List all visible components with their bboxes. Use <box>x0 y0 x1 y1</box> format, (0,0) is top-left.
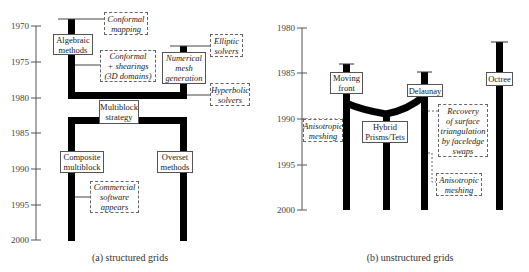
annotation-conformal-shearings: Conformal + shearings (3D domains) <box>100 50 156 82</box>
label-line: front <box>338 83 355 93</box>
method-composite-multiblock: Composite multiblock <box>60 151 104 173</box>
label-line: methods <box>59 45 88 55</box>
label-line: Hyperbolic <box>211 85 249 95</box>
label-line: software <box>100 192 129 202</box>
label-line: methods <box>161 162 190 172</box>
label-line: Hybrid <box>373 122 397 132</box>
method-algebraic-methods: Algebraic methods <box>53 34 93 55</box>
label-line: Delaunay <box>409 86 442 96</box>
method-numerical-mesh-generation: Numerical mesh generation <box>162 52 206 84</box>
label-line: meshing <box>309 131 337 141</box>
label-line: Composite <box>64 152 101 162</box>
svg-text:1980: 1980 <box>11 93 30 103</box>
label-line: Moving <box>333 73 360 83</box>
label-line: by faceledge <box>442 136 485 146</box>
label-line: solvers <box>214 46 238 56</box>
annotation-anisotropic-meshing-right: Anisotropic meshing <box>436 173 482 196</box>
label-line: triangulation <box>441 126 486 136</box>
label-line: + shearings <box>108 61 149 71</box>
label-line: Prisms/Tets <box>365 132 405 142</box>
label-line: multiblock <box>64 162 101 172</box>
label-line: mesh <box>175 63 192 73</box>
method-hybrid-prisms-tets: Hybrid Prisms/Tets <box>362 121 408 143</box>
annotation-conformal-mapping: Conformal mapping <box>104 12 148 35</box>
label-line: Conformal <box>110 51 147 61</box>
svg-text:1995: 1995 <box>277 160 296 170</box>
label-line: mapping <box>111 24 141 34</box>
label-line: Anisotropic <box>303 121 342 131</box>
annotation-anisotropic-meshing-left: Anisotropic meshing <box>303 119 343 142</box>
unstructured-caps <box>339 42 508 72</box>
svg-text:1995: 1995 <box>11 200 30 210</box>
annotation-hyperbolic-solvers: Hyperbolic solvers <box>210 83 250 106</box>
method-overset-methods: Overset methods <box>157 151 193 173</box>
svg-text:2000: 2000 <box>11 235 30 245</box>
method-multiblock-strategy: Multiblock strategy <box>99 100 139 124</box>
axis-structured-labels: 1970 1975 1980 1985 1990 1995 2000 <box>11 21 30 245</box>
label-line: Overset <box>162 152 188 162</box>
label-line: solvers <box>218 95 242 105</box>
method-octree: Octree <box>486 72 513 86</box>
svg-text:1980: 1980 <box>277 23 296 33</box>
label-line: of surface <box>446 116 480 126</box>
svg-text:1990: 1990 <box>11 164 30 174</box>
svg-text:1970: 1970 <box>11 21 30 31</box>
label-line: swaps <box>453 146 474 156</box>
label-line: meshing <box>445 185 473 195</box>
annotation-elliptic-solvers: Elliptic solvers <box>210 34 243 57</box>
label-line: Octree <box>488 74 511 84</box>
method-delaunay: Delaunay <box>407 84 443 97</box>
label-line: Numerical <box>166 53 202 63</box>
axis-unstructured-labels: 1980 1985 1990 1995 2000 <box>277 23 296 215</box>
label-line: Multiblock <box>100 102 138 112</box>
axis-structured <box>31 26 41 240</box>
label-line: Algebraic <box>56 35 90 45</box>
method-moving-front: Moving front <box>330 72 363 94</box>
label-line: Anisotropic <box>439 175 478 185</box>
label-line: Conformal <box>108 14 145 24</box>
label-line: generation <box>166 73 203 83</box>
svg-text:1985: 1985 <box>11 128 30 138</box>
label-line: appears <box>101 202 128 212</box>
caption-structured-grids: (a) structured grids <box>40 252 220 263</box>
label-line: (3D domains) <box>105 71 152 81</box>
svg-text:1990: 1990 <box>277 114 296 124</box>
caption-unstructured-grids: (b) unstructured grids <box>320 252 500 263</box>
svg-text:1985: 1985 <box>277 68 296 78</box>
label-line: Commercial <box>94 182 136 192</box>
hybrid-merge-curve <box>346 96 424 114</box>
annotation-commercial-software: Commercial software appears <box>90 181 139 213</box>
annotation-recovery-surface-triangulation: Recovery of surface triangulation by fac… <box>438 104 488 157</box>
svg-text:1975: 1975 <box>11 57 30 67</box>
label-line: strategy <box>106 112 133 122</box>
label-line: Elliptic <box>214 36 239 46</box>
label-line: Recovery <box>447 106 479 116</box>
svg-text:2000: 2000 <box>277 205 296 215</box>
